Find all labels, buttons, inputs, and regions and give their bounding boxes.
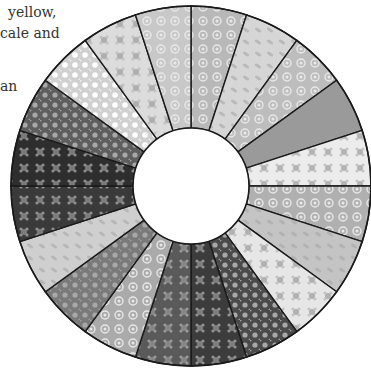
center-circle	[133, 128, 249, 244]
dresden-plate-quilt	[0, 0, 371, 371]
